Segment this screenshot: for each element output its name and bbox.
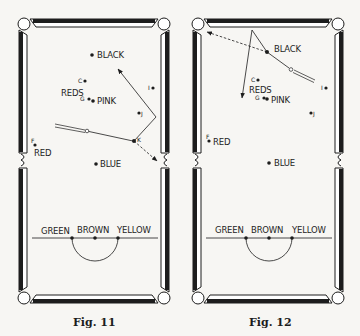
figure-caption: Fig. 11 <box>73 316 116 329</box>
brown-spot <box>267 236 271 240</box>
d-semicircle <box>246 238 292 261</box>
g-label: G <box>80 95 85 102</box>
f-ball <box>207 139 210 142</box>
cue <box>293 70 315 83</box>
c-ball <box>83 79 86 82</box>
cue-ball-rebound-arrow <box>118 69 156 141</box>
green-label: GREEN <box>41 226 70 236</box>
snooker-diagrams: BLACK C REDS G PINK I J F RED BLUE GREEN… <box>0 0 360 336</box>
black-ball <box>90 53 94 57</box>
cue <box>55 124 85 133</box>
cue-ball <box>85 129 89 133</box>
yellow-label: YELLOW <box>116 225 151 235</box>
g-ball <box>262 96 265 99</box>
figure-12-table: BLACK C REDS G PINK I J F RED BLUE GREEN… <box>192 18 344 329</box>
j-label: J <box>312 110 315 118</box>
f-label: F <box>206 133 210 140</box>
green-spot <box>244 236 248 240</box>
black-to-pocket-arrow <box>207 32 267 52</box>
black-ball <box>265 50 269 54</box>
object-ball-pocket-arrow <box>134 141 157 161</box>
blue-ball <box>267 161 271 165</box>
yellow-spot <box>116 236 120 240</box>
pink-ball <box>91 99 95 103</box>
red-label: RED <box>213 137 231 147</box>
cue-ball-path <box>89 132 133 142</box>
pink-label: PINK <box>97 96 116 106</box>
blue-label: BLUE <box>100 159 121 169</box>
f-ball <box>33 143 36 146</box>
yellow-label: YELLOW <box>291 225 326 235</box>
reds-label: REDS <box>249 85 271 95</box>
blue-ball <box>94 162 98 166</box>
green-label: GREEN <box>215 225 244 235</box>
black-label: BLACK <box>274 44 302 54</box>
c-label: C <box>78 77 82 84</box>
i-label: I <box>321 84 323 91</box>
c-label: C <box>251 76 255 83</box>
pink-ball <box>265 97 269 101</box>
brown-label: BROWN <box>77 225 109 235</box>
brown-spot <box>93 236 97 240</box>
brown-label: BROWN <box>251 225 283 235</box>
red-label: RED <box>34 148 52 158</box>
cue-ball <box>289 68 293 72</box>
black-label: BLACK <box>97 50 125 60</box>
j-label: J <box>140 110 143 118</box>
d-semicircle <box>72 238 118 261</box>
pink-label: PINK <box>271 95 290 105</box>
blue-label: BLUE <box>274 158 295 168</box>
figure-caption: Fig. 12 <box>249 316 292 329</box>
yellow-spot <box>290 236 294 240</box>
i-label: I <box>148 84 150 91</box>
figure-11-table: BLACK C REDS G PINK I J F RED BLUE GREEN… <box>18 18 170 329</box>
g-label: G <box>255 94 260 101</box>
g-ball <box>87 97 90 100</box>
c-ball <box>256 78 259 81</box>
i-ball <box>151 86 154 89</box>
f-label: F <box>31 137 35 144</box>
cue-ball-path <box>267 52 289 68</box>
i-ball <box>324 86 327 89</box>
green-spot <box>70 236 74 240</box>
